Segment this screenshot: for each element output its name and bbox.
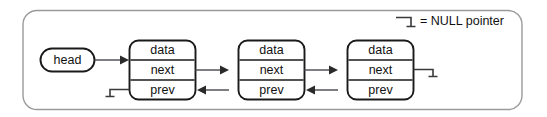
node-1-next-label: next [151,63,175,77]
node-3-next-label: next [369,63,393,77]
list-node-2: data next prev [239,41,305,100]
head-label: head [54,53,82,67]
node-1-prev-label: prev [150,83,175,97]
null-pointer-symbol-legend-icon [396,18,416,27]
node-1-data-label: data [150,43,174,57]
doubly-linked-list-diagram: = NULL pointer head data next prev [0,0,547,117]
arrow-head-to-node1 [95,56,129,65]
node-2-prev-label: prev [259,83,284,97]
arrow-node3-prev-to-node2 [306,86,338,95]
legend-label: = NULL pointer [420,14,504,28]
node-3-next-null-pointer [414,70,438,77]
node-2-data-label: data [259,43,283,57]
list-node-1: data next prev [130,41,196,100]
node-2-next-label: next [260,63,284,77]
list-node-3: data next prev [348,41,414,100]
arrow-node2-prev-to-node1 [197,86,229,95]
head-pointer-node: head [41,49,95,72]
arrow-node2-next-to-node3 [305,66,339,75]
node-3-prev-label: prev [368,83,393,97]
arrow-node1-next-to-node2 [196,66,230,75]
node-3-data-label: data [368,43,392,57]
diagram-canvas: = NULL pointer head data next prev [0,0,547,117]
node-1-prev-null-pointer [106,90,130,97]
